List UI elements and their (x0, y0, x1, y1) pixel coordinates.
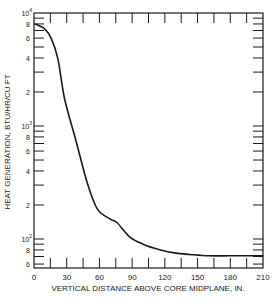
x-tick-label: 30 (62, 273, 71, 282)
y-tick-label: 2 (26, 202, 30, 209)
heat-generation-chart: 1048642103864210286 0306090120150180210 … (0, 0, 279, 302)
x-tick-label: 120 (158, 273, 172, 282)
y-tick-label: 4 (26, 55, 30, 62)
y-tick-label: 6 (26, 261, 30, 268)
x-tick-label: 150 (191, 273, 205, 282)
x-axis-label: VERTICAL DISTANCE ABOVE CORE MIDPLANE, I… (51, 284, 244, 293)
y-tick-label: 6 (26, 35, 30, 42)
y-tick-label: 103 (21, 120, 32, 130)
y-tick-label: 8 (26, 247, 30, 254)
y-tick-label: 104 (21, 7, 32, 17)
y-tick-label: 102 (21, 233, 32, 243)
x-tick-labels: 0306090120150180210 (32, 273, 270, 282)
plot-frame (34, 13, 263, 268)
x-tick-label: 60 (95, 273, 104, 282)
y-tick-label: 4 (26, 168, 30, 175)
y-tick-labels: 1048642103864210286 (21, 7, 32, 268)
x-tick-label: 180 (224, 273, 238, 282)
axis-ticks (34, 13, 263, 268)
x-tick-label: 0 (32, 273, 37, 282)
heat-generation-curve (35, 24, 263, 256)
y-tick-label: 6 (26, 148, 30, 155)
x-tick-label: 210 (256, 273, 270, 282)
x-tick-label: 90 (128, 273, 137, 282)
y-tick-label: 8 (26, 134, 30, 141)
y-axis-label: HEAT GENERATION, BTU/HR/CU FT (3, 74, 12, 209)
y-tick-label: 2 (26, 89, 30, 96)
y-tick-label: 8 (26, 21, 30, 28)
